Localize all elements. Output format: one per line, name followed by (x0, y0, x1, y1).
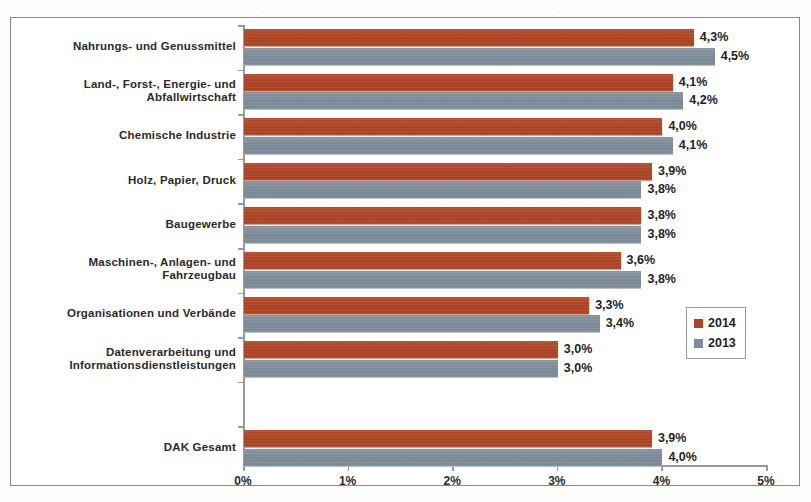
bar-2013-2 (244, 137, 673, 155)
bar-value-label: 4,5% (721, 48, 750, 65)
y-axis-tick (238, 114, 243, 116)
bar-2013-1 (244, 92, 683, 110)
y-axis-tick (238, 293, 243, 295)
legend-label: 2013 (708, 337, 736, 350)
x-axis-tick-label: 0% (234, 474, 251, 488)
chart-title-cropped (0, 0, 811, 16)
legend-item-2013[interactable]: 2013 (694, 333, 736, 353)
bar-2013-0 (244, 48, 715, 66)
bar-2014-4 (244, 207, 641, 225)
y-axis-tick (238, 248, 243, 250)
bar-value-label: 3,4% (606, 315, 635, 332)
y-axis-tick (238, 159, 243, 161)
bar-value-label: 3,3% (595, 297, 624, 314)
bar-value-label: 4,1% (679, 74, 708, 91)
bar-2013-4 (244, 226, 641, 244)
category-label: Organisationen und Verbände (21, 307, 236, 320)
category-label: Nahrungs- und Genussmittel (21, 40, 236, 53)
bar-value-label: 3,9% (658, 163, 687, 180)
category-label: DAK Gesamt (21, 441, 236, 454)
bar-2014-3 (244, 163, 652, 181)
x-axis-tick-label: 2% (444, 474, 461, 488)
y-axis-tick (238, 25, 243, 27)
bar-2014-0 (244, 29, 694, 47)
x-axis-tick-label: 4% (653, 474, 670, 488)
bar-2013-3 (244, 181, 641, 199)
bar-value-label: 4,2% (689, 92, 718, 109)
chart-legend: 20142013 (686, 307, 746, 359)
bar-value-label: 4,0% (668, 449, 697, 466)
category-label: Chemische Industrie (21, 129, 236, 142)
bar-value-label: 3,8% (647, 226, 676, 243)
bar-value-label: 3,8% (647, 271, 676, 288)
chart-frame: 0%1%2%3%4%5%Nahrungs- und Genussmittel4,… (10, 17, 800, 486)
scanned-page: 0%1%2%3%4%5%Nahrungs- und Genussmittel4,… (0, 0, 811, 502)
legend-label: 2014 (708, 317, 736, 330)
legend-swatch-icon (694, 319, 703, 328)
bar-2014-6 (244, 297, 589, 315)
y-axis-tick (238, 337, 243, 339)
x-axis-tick-label: 3% (548, 474, 565, 488)
bar-2014-1 (244, 74, 673, 92)
bar-2014-5 (244, 252, 621, 270)
category-label: Holz, Papier, Druck (21, 174, 236, 187)
y-axis-tick (238, 203, 243, 205)
bar-value-label: 4,3% (700, 29, 729, 46)
bar-value-label: 4,1% (679, 137, 708, 154)
bar-value-label: 3,8% (647, 181, 676, 198)
bar-2013-5 (244, 271, 641, 289)
category-label: Land-, Forst-, Energie- und Abfallwirtsc… (21, 78, 236, 104)
bar-value-label: 3,0% (564, 341, 593, 358)
bar-value-label: 3,0% (564, 360, 593, 377)
x-axis-tick-label: 5% (757, 474, 774, 488)
bar-2014-2 (244, 118, 662, 136)
bar-value-label: 3,9% (658, 430, 687, 447)
legend-item-2014[interactable]: 2014 (694, 313, 736, 333)
bar-2014-7 (244, 341, 558, 359)
category-label: Maschinen-, Anlagen- und Fahrzeugbau (21, 256, 236, 282)
bar-2013-9 (244, 449, 662, 467)
bar-value-label: 4,0% (668, 118, 697, 135)
bar-2013-6 (244, 315, 600, 333)
legend-swatch-icon (694, 339, 703, 348)
y-axis-tick (238, 382, 243, 384)
y-axis-tick (238, 426, 243, 428)
x-axis-tick (766, 465, 768, 471)
bar-value-label: 3,6% (627, 252, 656, 269)
plot-area: 0%1%2%3%4%5%Nahrungs- und Genussmittel4,… (11, 18, 801, 487)
category-label: Baugewerbe (21, 218, 236, 231)
x-axis-tick-label: 1% (339, 474, 356, 488)
bar-value-label: 3,8% (647, 207, 676, 224)
bar-2013-7 (244, 360, 558, 378)
y-axis-tick (238, 70, 243, 72)
category-label: Datenverarbeitung und Informationsdienst… (21, 346, 236, 372)
bar-2014-9 (244, 430, 652, 448)
